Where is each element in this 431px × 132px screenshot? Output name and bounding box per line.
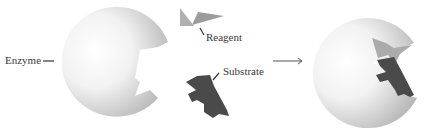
reaction-arrow-icon	[273, 58, 302, 64]
substrate-label: Substrate	[223, 65, 264, 77]
substrate-leader-line	[213, 73, 219, 80]
enzyme-left	[62, 7, 168, 117]
reagent-shape	[180, 8, 224, 26]
diagram-graphic	[0, 0, 431, 132]
reagent-leader-line	[200, 28, 204, 35]
reagent-label: Reagent	[206, 31, 242, 43]
substrate-shape	[186, 75, 229, 118]
enzyme-substrate-complex	[313, 18, 417, 128]
enzyme-label: Enzyme	[5, 54, 41, 66]
enzyme-diagram: Enzyme Reagent Substrate	[0, 0, 431, 132]
